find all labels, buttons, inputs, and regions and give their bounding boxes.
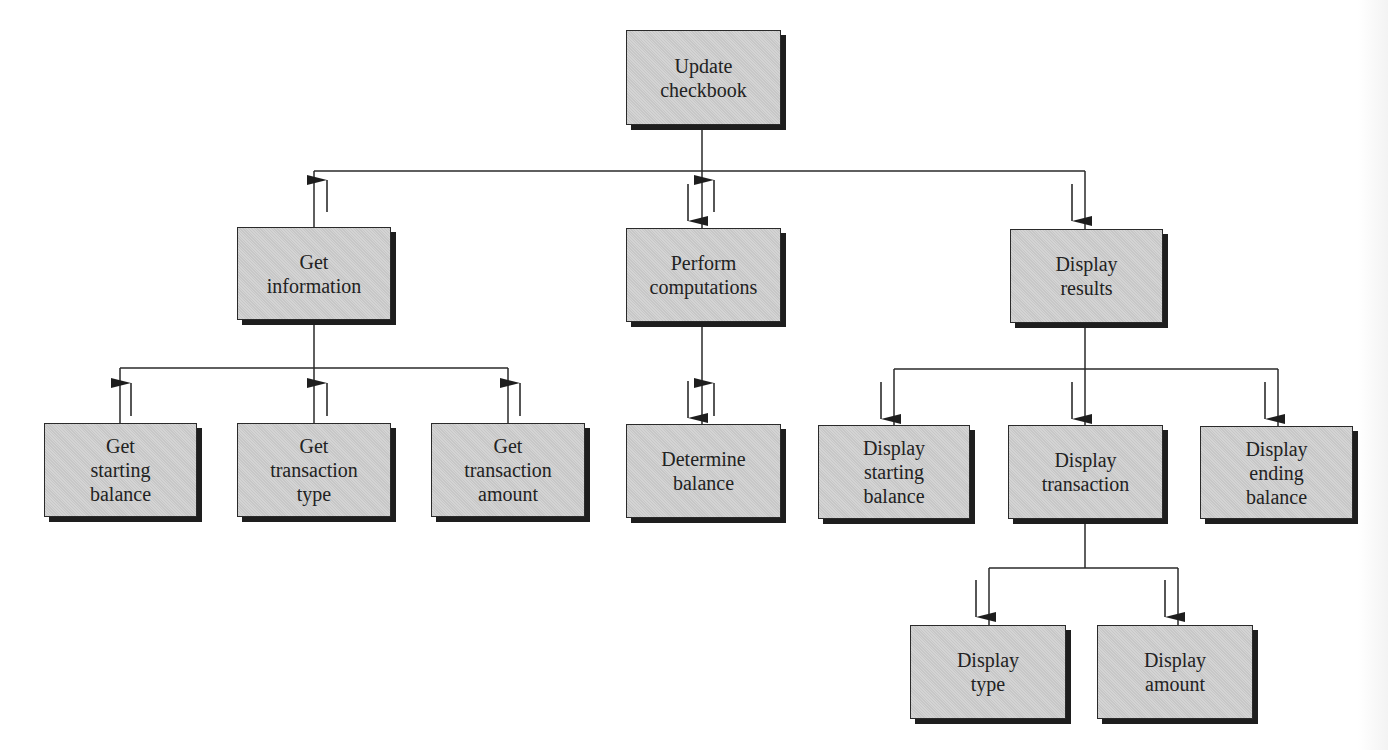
scan-edge	[1358, 0, 1388, 750]
node-get-transaction-type: Get transaction type	[237, 423, 391, 517]
node-label: Update checkbook	[660, 54, 747, 102]
node-determine-balance: Determine balance	[626, 424, 781, 518]
node-display-starting-balance: Display starting balance	[818, 425, 970, 519]
node-label: Display amount	[1144, 648, 1206, 696]
node-update-checkbook: Update checkbook	[626, 30, 781, 125]
node-display-transaction: Display transaction	[1008, 425, 1163, 519]
node-label: Display results	[1055, 252, 1117, 300]
node-label: Determine balance	[661, 447, 745, 495]
node-get-information: Get information	[237, 227, 391, 320]
node-get-transaction-amount: Get transaction amount	[431, 423, 585, 517]
node-label: Get transaction type	[270, 434, 358, 506]
structure-chart: Update checkbook Get information Perform…	[0, 0, 1388, 750]
node-display-type: Display type	[910, 625, 1066, 719]
node-label: Display ending balance	[1245, 437, 1307, 509]
node-label: Get starting balance	[90, 434, 151, 506]
node-label: Display starting balance	[863, 436, 925, 508]
node-display-results: Display results	[1010, 229, 1163, 323]
node-display-ending-balance: Display ending balance	[1200, 426, 1353, 519]
node-label: Get information	[267, 250, 361, 298]
node-get-starting-balance: Get starting balance	[44, 423, 197, 517]
node-perform-computations: Perform computations	[626, 228, 781, 322]
node-label: Perform computations	[650, 251, 758, 299]
node-label: Get transaction amount	[464, 434, 552, 506]
node-label: Display transaction	[1042, 448, 1130, 496]
node-display-amount: Display amount	[1097, 625, 1253, 719]
node-label: Display type	[957, 648, 1019, 696]
